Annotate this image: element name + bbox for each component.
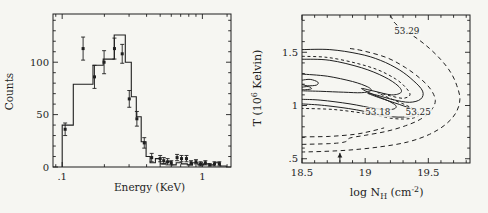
y-tick-label: .5 [288,153,298,164]
contour-solid [302,79,318,85]
x-tick-label: 1 [199,171,205,182]
data-point-marker [128,97,131,100]
y-tick-label: 50 [36,109,49,120]
data-point-marker [170,161,173,164]
contour-level-label: 53.18 [365,107,390,117]
contour-level-label: 53.29 [394,26,419,36]
x-tick-label: 19 [359,167,372,178]
data-point-marker [103,61,106,64]
data-point-marker [185,157,188,160]
contour-solid [302,87,312,90]
arrow-marker-head [337,153,342,158]
data-point-marker [135,117,138,120]
data-point-marker [204,161,207,164]
data-points [63,37,221,166]
contour-dash-short [302,56,420,119]
data-point-marker [194,160,197,163]
contour-dash [302,15,460,152]
x-axis-title: Energy (KeV) [114,181,185,193]
contour-solid [302,74,371,93]
contour-level-label: 53.25 [406,107,431,117]
data-point-marker [199,162,202,165]
contour-dash [302,128,384,137]
data-point-marker [180,157,183,160]
y-tick-label: 1 [292,100,298,111]
plot-frame [53,14,231,167]
y-tick-label: 100 [30,57,49,68]
y-tick-label: 0 [43,162,49,173]
data-point-marker [143,141,146,144]
data-point-marker [82,47,85,50]
x-tick-label: 18.5 [291,167,313,178]
right-contour-panel: 18.51919.5.511.5log NH (cm-2)T (106 Kelv… [244,0,488,213]
x-tick-label: 19.5 [417,167,439,178]
y-axis-title: T (106 Kelvin) [250,50,265,127]
y-tick-label: 1.5 [282,47,298,58]
y-axis-title: Counts [3,73,15,111]
data-point-marker [190,161,193,164]
plot-frame [302,15,470,163]
data-point-marker [159,157,162,160]
x-axis-title: log NH (cm-2) [350,185,424,201]
two-panel-figure: .11050100Energy (KeV)Counts 18.51919.5.5… [0,0,488,213]
data-point-marker [208,163,211,166]
left-histogram-panel: .11050100Energy (KeV)Counts [0,0,244,213]
data-point-marker [150,156,153,159]
data-point-marker [166,160,169,163]
data-point-marker [121,52,124,55]
data-point-marker [162,159,165,162]
contour-lines [302,15,460,152]
data-point-marker [218,162,221,165]
contour-dash [302,49,435,145]
data-point-marker [213,162,216,165]
x-tick-label: .1 [57,171,67,182]
data-point-marker [64,128,67,131]
data-point-marker [176,156,179,159]
data-point-marker [93,75,96,78]
data-point-marker [113,47,116,50]
